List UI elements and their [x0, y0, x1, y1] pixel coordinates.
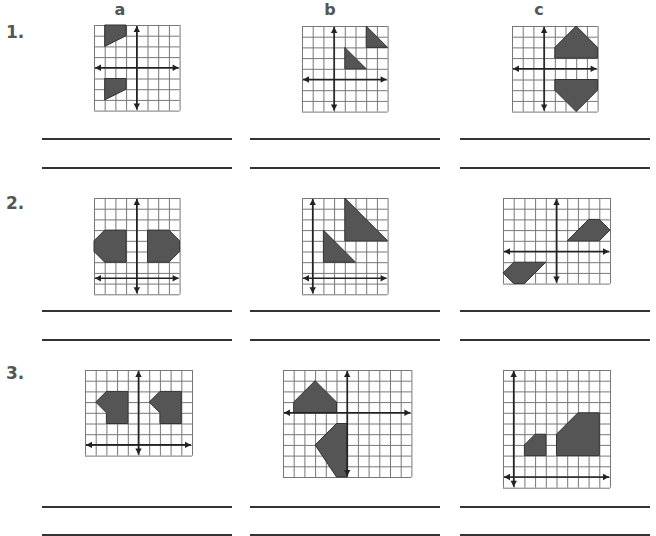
answer-line[interactable] — [250, 310, 440, 312]
column-header-b: b — [315, 0, 345, 19]
problem-number-2: 2. — [6, 193, 24, 213]
coordinate-grid-2c — [503, 198, 611, 285]
coordinate-grid-3b — [283, 370, 412, 478]
answer-line[interactable] — [460, 339, 650, 341]
coordinate-grid-2a — [94, 198, 181, 295]
column-header-c: c — [524, 0, 554, 19]
coordinate-grid-1b — [302, 26, 389, 113]
shape-3b-1 — [294, 381, 337, 413]
shape-3a-2 — [149, 391, 181, 423]
y-axis-arrow-icon — [134, 199, 140, 293]
shape-3a-1 — [96, 391, 128, 423]
column-header-a: a — [105, 0, 135, 19]
answer-line[interactable] — [460, 506, 650, 508]
y-axis-arrow-icon — [135, 371, 141, 455]
coordinate-grid-1a — [94, 25, 181, 112]
answer-line[interactable] — [460, 310, 650, 312]
answer-line[interactable] — [460, 167, 650, 169]
x-axis-arrow-icon — [513, 66, 597, 72]
shape-3c-1 — [524, 434, 545, 455]
y-axis-arrow-icon — [511, 371, 517, 487]
x-axis-arrow-icon — [303, 76, 387, 82]
problem-number-1: 1. — [6, 22, 24, 42]
answer-line[interactable] — [42, 138, 232, 140]
shape-2a-2 — [148, 230, 180, 262]
shape-3b-2 — [315, 424, 347, 478]
answer-line[interactable] — [42, 310, 232, 312]
answer-line[interactable] — [250, 339, 440, 341]
y-axis-arrow-icon — [310, 199, 316, 293]
coordinate-grid-3a — [85, 370, 193, 457]
coordinate-grid-1c — [512, 26, 599, 113]
problem-number-3: 3. — [6, 363, 24, 383]
answer-line[interactable] — [42, 167, 232, 169]
shape-1c-2 — [555, 80, 598, 112]
answer-line[interactable] — [250, 167, 440, 169]
shape-2a-1 — [94, 230, 126, 262]
answer-line[interactable] — [42, 339, 232, 341]
x-axis-arrow-icon — [303, 275, 387, 281]
coordinate-grid-2b — [302, 198, 389, 295]
shape-1a-1 — [105, 25, 126, 46]
coordinate-grid-3c — [503, 370, 611, 489]
answer-line[interactable] — [460, 138, 650, 140]
shape-3c-2 — [557, 413, 600, 456]
answer-line[interactable] — [250, 506, 440, 508]
shape-1a-2 — [105, 79, 126, 100]
answer-line[interactable] — [250, 138, 440, 140]
shape-1c-1 — [555, 26, 598, 58]
answer-line[interactable] — [42, 506, 232, 508]
